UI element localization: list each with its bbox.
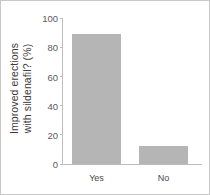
- y-axis-tick-mark: [60, 164, 63, 165]
- y-axis-tick-label: 40: [47, 101, 60, 111]
- y-axis-tick-mark: [60, 76, 63, 77]
- y-axis-tick-mark: [60, 134, 63, 135]
- y-axis-tick-mark: [60, 105, 63, 106]
- y-axis-tick-mark: [60, 47, 63, 48]
- bar: [139, 146, 187, 164]
- y-axis-spine: [62, 18, 63, 165]
- y-axis-title: Improved erections with sildenafil? (%): [1, 1, 41, 176]
- y-axis-tick-mark: [60, 18, 63, 19]
- x-axis-tick-label: No: [158, 173, 170, 183]
- y-axis-tick-label: 100: [42, 14, 60, 24]
- y-axis-tick-label: 80: [47, 43, 60, 53]
- y-axis-title-line-1: Improved erections: [9, 43, 22, 134]
- bar: [72, 34, 120, 164]
- x-axis-tick-label: Yes: [89, 173, 104, 183]
- y-axis-tick-label: 20: [47, 131, 60, 141]
- bar-chart-figure: Improved erections with sildenafil? (%) …: [0, 0, 210, 195]
- y-axis-tick-label: 0: [53, 160, 60, 170]
- y-axis-title-line-2: with sildenafil? (%): [21, 43, 34, 134]
- y-axis-tick-label: 60: [47, 72, 60, 82]
- x-axis-spine: [62, 164, 202, 165]
- plot-area: 020406080100 YesNo: [63, 18, 197, 164]
